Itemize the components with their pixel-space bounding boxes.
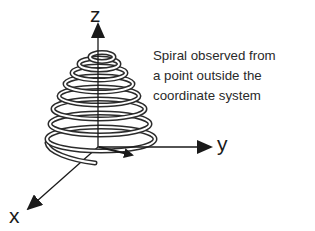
x-axis-label: x <box>9 205 20 226</box>
y-axis-label: y <box>217 133 228 154</box>
spiral-figure <box>0 0 315 231</box>
caption-line-2: a point outside the <box>153 66 276 86</box>
caption-line-1: Spiral observed from <box>153 46 276 66</box>
caption-line-3: coordinate system <box>153 86 276 106</box>
z-axis-label: z <box>90 4 101 25</box>
caption: Spiral observed from a point outside the… <box>153 46 276 106</box>
spiral-diagram: z y x Spiral observed from a point outsi… <box>0 0 315 231</box>
